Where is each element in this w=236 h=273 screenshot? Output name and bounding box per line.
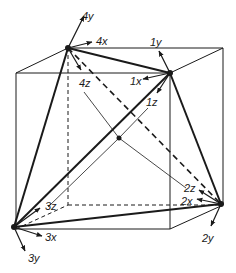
label-2z: 2z (183, 182, 196, 194)
atom-center (117, 136, 122, 141)
tetrahedron-cube-diagram: 4y 4x 4z 1y 1x 1z 2z 2x 2y 3z 3x 3y (0, 0, 236, 273)
label-1y: 1y (150, 36, 163, 48)
label-3x: 3x (45, 231, 57, 243)
arrow-3x (14, 227, 42, 236)
label-2x: 2x (180, 195, 193, 207)
arrow-2y (211, 204, 221, 226)
arrow-4x (68, 42, 92, 48)
label-3y: 3y (28, 252, 41, 264)
atom-vertex-4 (65, 45, 71, 51)
center-leader-lines (48, 92, 186, 207)
label-3z: 3z (45, 200, 57, 212)
label-4y: 4y (82, 10, 95, 22)
label-4z: 4z (79, 77, 91, 89)
atom-vertex-3 (11, 224, 17, 230)
cube-edge (170, 48, 223, 73)
tetra-edge-4-2 (68, 48, 221, 204)
atom-vertex-2 (218, 201, 224, 207)
tetra-edge-4-1 (68, 48, 170, 73)
label-4x: 4x (96, 35, 108, 47)
label-2y: 2y (201, 232, 215, 244)
label-1x: 1x (130, 75, 142, 87)
atom-vertex-1 (167, 70, 173, 76)
cube-edge (16, 48, 68, 73)
label-1z: 1z (146, 96, 158, 108)
